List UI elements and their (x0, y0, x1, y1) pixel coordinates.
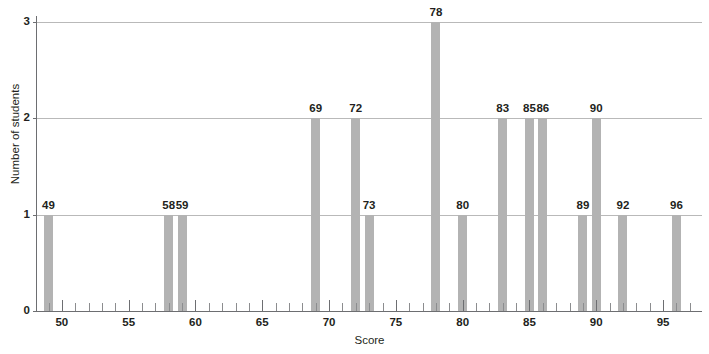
bar-label-90: 90 (576, 103, 616, 115)
x-minor-tick-61 (209, 303, 210, 311)
bar-49 (44, 215, 53, 311)
bar-label-49: 49 (29, 200, 69, 212)
bar-80 (458, 215, 467, 311)
x-minor-tick-76 (409, 303, 410, 311)
x-minor-tick-93 (636, 303, 637, 311)
bar-89 (578, 215, 587, 311)
x-axis-line (36, 311, 702, 312)
x-minor-tick-57 (155, 303, 156, 311)
x-major-tick-55 (129, 300, 130, 311)
bar-58 (164, 215, 173, 311)
x-minor-tick-84 (516, 303, 517, 311)
x-minor-tick-86 (543, 303, 544, 311)
x-tick-label-50: 50 (42, 316, 82, 329)
x-minor-tick-92 (623, 303, 624, 311)
x-minor-tick-77 (423, 303, 424, 311)
x-tick-label-55: 55 (109, 316, 149, 329)
bar-label-59: 59 (162, 200, 202, 212)
x-major-tick-70 (329, 300, 330, 311)
bar-label-80: 80 (443, 200, 483, 212)
bar-86 (538, 118, 547, 311)
x-minor-tick-67 (289, 303, 290, 311)
bar-85 (525, 118, 534, 311)
x-minor-tick-51 (75, 303, 76, 311)
x-tick-label-75: 75 (376, 316, 416, 329)
x-minor-tick-63 (236, 303, 237, 311)
x-minor-tick-58 (169, 303, 170, 311)
bar-59 (178, 215, 187, 311)
x-major-tick-75 (396, 300, 397, 311)
x-minor-tick-83 (503, 303, 504, 311)
x-minor-tick-89 (583, 303, 584, 311)
x-tick-label-60: 60 (175, 316, 215, 329)
bars-group (0, 0, 709, 311)
x-minor-tick-91 (610, 303, 611, 311)
x-tick-label-65: 65 (242, 316, 282, 329)
bar-label-92: 92 (603, 200, 643, 212)
x-tick-label-95: 95 (643, 316, 683, 329)
x-minor-tick-94 (650, 303, 651, 311)
x-minor-tick-64 (249, 303, 250, 311)
x-major-tick-50 (62, 300, 63, 311)
x-tick-label-80: 80 (443, 316, 483, 329)
x-tick-label-90: 90 (576, 316, 616, 329)
x-tick-label-85: 85 (509, 316, 549, 329)
bar-label-89: 89 (563, 200, 603, 212)
x-major-tick-85 (529, 300, 530, 311)
x-minor-tick-56 (142, 303, 143, 311)
bar-72 (351, 118, 360, 311)
x-minor-tick-62 (222, 303, 223, 311)
x-minor-tick-82 (489, 303, 490, 311)
x-axis-title: Score (0, 334, 709, 346)
x-minor-tick-96 (676, 303, 677, 311)
x-axis-title-text: Score (354, 334, 384, 346)
bar-label-69: 69 (296, 103, 336, 115)
bar-label-72: 72 (336, 103, 376, 115)
x-minor-tick-53 (102, 303, 103, 311)
x-major-tick-60 (195, 300, 196, 311)
x-minor-tick-54 (115, 303, 116, 311)
x-major-tick-90 (596, 300, 597, 311)
bar-69 (311, 118, 320, 311)
bar-83 (498, 118, 507, 311)
x-minor-tick-81 (476, 303, 477, 311)
bar-78 (431, 22, 440, 311)
x-minor-tick-66 (276, 303, 277, 311)
bar-label-96: 96 (656, 200, 696, 212)
x-minor-tick-97 (690, 303, 691, 311)
x-minor-tick-69 (316, 303, 317, 311)
x-major-tick-80 (463, 300, 464, 311)
x-minor-tick-52 (89, 303, 90, 311)
x-minor-tick-49 (49, 303, 50, 311)
x-minor-tick-68 (302, 303, 303, 311)
x-minor-tick-79 (449, 303, 450, 311)
bar-73 (365, 215, 374, 311)
bar-90 (592, 118, 601, 311)
x-tick-label-70: 70 (309, 316, 349, 329)
x-minor-tick-59 (182, 303, 183, 311)
score-histogram-chart: Number of students 0123 4958596972737880… (0, 0, 709, 354)
x-minor-tick-74 (383, 303, 384, 311)
x-major-tick-95 (663, 300, 664, 311)
bar-label-86: 86 (523, 103, 563, 115)
x-minor-tick-71 (342, 303, 343, 311)
x-major-tick-65 (262, 300, 263, 311)
x-minor-tick-78 (436, 303, 437, 311)
x-minor-tick-72 (356, 303, 357, 311)
x-minor-tick-73 (369, 303, 370, 311)
x-minor-tick-87 (556, 303, 557, 311)
bar-label-73: 73 (349, 200, 389, 212)
x-minor-tick-88 (570, 303, 571, 311)
bar-96 (672, 215, 681, 311)
bar-label-78: 78 (416, 7, 456, 19)
bar-92 (618, 215, 627, 311)
